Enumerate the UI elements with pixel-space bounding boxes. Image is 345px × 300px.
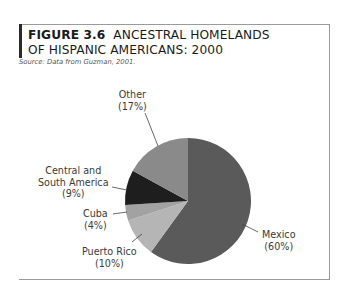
leader-line-other xyxy=(145,113,158,146)
label-cuba: Cuba (4%) xyxy=(83,208,108,231)
label-csa-pct: (9%) xyxy=(38,188,109,200)
label-other-name: Other xyxy=(118,89,147,101)
pie-slices xyxy=(125,138,251,264)
label-puerto-rico-pct: (10%) xyxy=(82,258,137,270)
pie-chart xyxy=(0,0,345,300)
label-csa-name1: Central and xyxy=(38,165,109,177)
label-mexico-name: Mexico xyxy=(262,229,296,241)
label-cuba-pct: (4%) xyxy=(83,220,108,232)
label-other: Other (17%) xyxy=(118,89,147,112)
leader-line-cuba xyxy=(113,212,127,214)
label-csa: Central and South America (9%) xyxy=(38,165,109,200)
label-other-pct: (17%) xyxy=(118,101,147,113)
label-puerto-rico-name: Puerto Rico xyxy=(82,246,137,258)
leader-line-csa xyxy=(112,187,127,190)
label-mexico-pct: (60%) xyxy=(262,241,296,253)
label-mexico: Mexico (60%) xyxy=(262,229,296,252)
label-csa-name2: South America xyxy=(38,177,109,189)
label-puerto-rico: Puerto Rico (10%) xyxy=(82,246,137,269)
label-cuba-name: Cuba xyxy=(83,208,108,220)
